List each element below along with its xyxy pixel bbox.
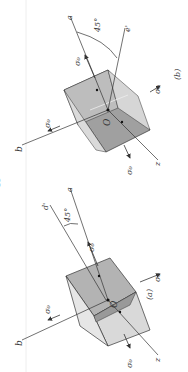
stress-arrow-up-b <box>85 55 95 78</box>
axis-d-prime-label: d' <box>41 203 50 210</box>
axis-b-label-b: b <box>14 146 24 152</box>
angle-arc-a <box>64 223 78 226</box>
angle-label-b: 45° <box>0 172 2 189</box>
axis-z-label-b: z <box>153 161 162 167</box>
axis-a-label-a: a <box>65 187 74 192</box>
axis-a-label-b: a <box>65 15 74 20</box>
axis-z-label-a: z <box>153 357 162 363</box>
stress-arrow-down-b <box>124 145 130 158</box>
stress-label-right-a: σ₀ <box>153 273 162 282</box>
stress-cube-diagram: 45° 45° a e' b z σ₀ σ₀ σ₀ σ₀ O (b) 45° <box>0 0 188 372</box>
angle-arc-b <box>77 32 117 58</box>
panel-a: 45° a d' b z σ₀ σ₀ σ₀ σ₀ O (a) <box>14 187 162 368</box>
panel-b: 45° 45° a e' b z σ₀ σ₀ σ₀ σ₀ O (b) <box>0 15 182 189</box>
stress-arrow-left-a <box>48 315 60 320</box>
angle-label-b: 45° <box>93 18 102 33</box>
stress-label-left-a: σ₀ <box>43 305 52 314</box>
stress-label-left-b: σ₀ <box>43 119 52 128</box>
axis-e-prime-label: e' <box>123 25 132 32</box>
stress-label-up-a: σ₀ <box>87 243 96 252</box>
caption-b: (b) <box>173 69 182 80</box>
stress-label-up-b: σ₀ <box>73 57 82 66</box>
axis-b-label-a: b <box>14 340 24 346</box>
origin-label-a: O <box>109 300 119 308</box>
caption-a: (a) <box>145 289 154 300</box>
origin-label-b: O <box>102 118 112 126</box>
stress-label-down-b: σ₀ <box>125 166 134 175</box>
stress-label-down-a: σ₀ <box>125 359 134 368</box>
stress-label-right-b: σ₀ <box>153 85 162 94</box>
origin-point-b <box>106 108 109 111</box>
angle-label-a: 45° <box>63 208 72 223</box>
